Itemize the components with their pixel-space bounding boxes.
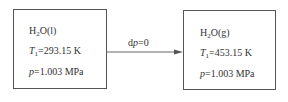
- initial-temperature-label: T1=293.15 K: [29, 45, 81, 57]
- final-state-box: H2O(g) T1=453.15 K p=1.003 MPa: [183, 10, 276, 90]
- initial-state-box: H2O(l) T1=293.15 K p=1.003 MPa: [13, 9, 107, 89]
- initial-species-label: H2O(l): [29, 25, 56, 37]
- initial-pressure-label: p=1.003 MPa: [29, 66, 84, 78]
- final-temperature-label: T1=453.15 K: [200, 47, 252, 59]
- process-arrow-icon: [107, 45, 183, 59]
- final-species-label: H2O(g): [200, 27, 230, 39]
- final-pressure-label: p=1.003 MPa: [200, 68, 255, 80]
